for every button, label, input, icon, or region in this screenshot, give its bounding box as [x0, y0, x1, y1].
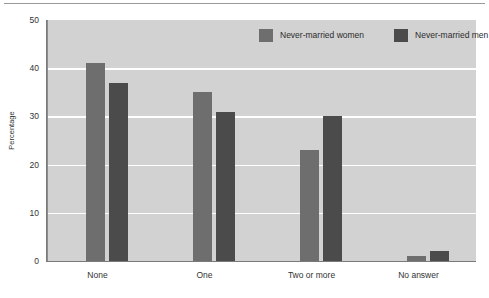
legend-swatch-icon-men	[394, 29, 408, 42]
x-tick-no-answer: No answer	[376, 270, 461, 280]
y-tick-20: 20	[0, 161, 39, 170]
y-tick-50: 50	[0, 16, 39, 25]
chart-legend: Never-married women Never-married men	[259, 27, 488, 43]
bar-none-women	[86, 63, 105, 261]
legend-swatch-icon-women	[259, 29, 273, 42]
legend-entry-never-married-men: Never-married men	[394, 29, 488, 42]
top-horizontal-rule	[4, 3, 485, 4]
bar-chart-figure: 50 40 30 20 10 0 Percentage	[0, 0, 489, 298]
bar-two-or-more-men	[323, 116, 342, 261]
x-axis-line	[46, 261, 476, 262]
legend-label-women: Never-married women	[280, 30, 364, 40]
y-axis-title: Percentage	[7, 101, 16, 161]
bar-one-men	[216, 112, 235, 261]
x-tick-two-or-more: Two or more	[269, 270, 354, 280]
legend-entry-never-married-women: Never-married women	[259, 29, 364, 42]
plot-area: Never-married women Never-married men	[47, 20, 476, 261]
y-axis-line	[46, 20, 47, 262]
y-tick-0: 0	[0, 257, 39, 266]
x-tick-none: None	[55, 270, 140, 280]
plot-inner: Never-married women Never-married men	[48, 20, 476, 261]
y-tick-40: 40	[0, 64, 39, 73]
bar-two-or-more-women	[300, 150, 319, 261]
bar-no-answer-men	[430, 251, 449, 261]
bar-one-women	[193, 92, 212, 261]
bar-none-men	[109, 83, 128, 261]
gridline-40	[48, 68, 476, 70]
legend-label-men: Never-married men	[415, 30, 488, 40]
y-tick-10: 10	[0, 209, 39, 218]
x-tick-one: One	[162, 270, 247, 280]
